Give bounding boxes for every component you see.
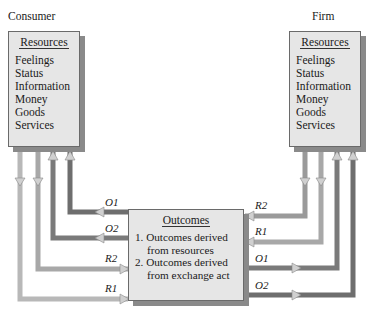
arrow-left-o1 [70,147,128,212]
flow-label-left-r1: R1 [105,282,117,294]
list-item: 2. Outcomes derived from exchange act [135,256,243,281]
flow-label-left-o1: O1 [105,196,118,208]
consumer-resources-list: Feelings Status Information Money Goods … [9,54,79,132]
firm-resources-box: Resources Feelings Status Information Mo… [289,31,361,147]
list-item: 1. Outcomes derived from resources [135,231,243,256]
firm-title: Firm [312,10,334,22]
list-item: Goods [296,106,360,119]
outcomes-header: Outcomes [162,214,211,227]
list-item: Money [296,93,360,106]
list-item: Money [15,93,79,106]
outcomes-box: Outcomes 1. Outcomes derived from resour… [128,209,244,301]
list-item: Services [296,119,360,132]
list-item: Status [296,67,360,80]
consumer-resources-header: Resources [19,36,68,49]
flow-label-right-o2: O2 [255,279,268,291]
firm-resources-header: Resources [300,36,349,49]
consumer-resources-box: Resources Feelings Status Information Mo… [8,31,80,147]
flow-label-right-o1: O1 [255,252,268,264]
outcomes-list: 1. Outcomes derived from resources 2. Ou… [129,231,243,281]
flow-label-right-r2: R2 [255,199,267,211]
flow-label-left-o2: O2 [105,222,118,234]
list-item: Services [15,119,79,132]
list-item: Feelings [15,54,79,67]
consumer-title: Consumer [8,10,55,22]
list-item: Information [296,80,360,93]
flow-label-left-r2: R2 [105,252,117,264]
arrow-right-r2 [245,147,305,216]
list-item: Information [15,80,79,93]
flow-label-right-r1: R1 [255,225,267,237]
list-item: Status [15,67,79,80]
firm-resources-list: Feelings Status Information Money Goods … [290,54,360,132]
list-item: Goods [15,106,79,119]
list-item: Feelings [296,54,360,67]
